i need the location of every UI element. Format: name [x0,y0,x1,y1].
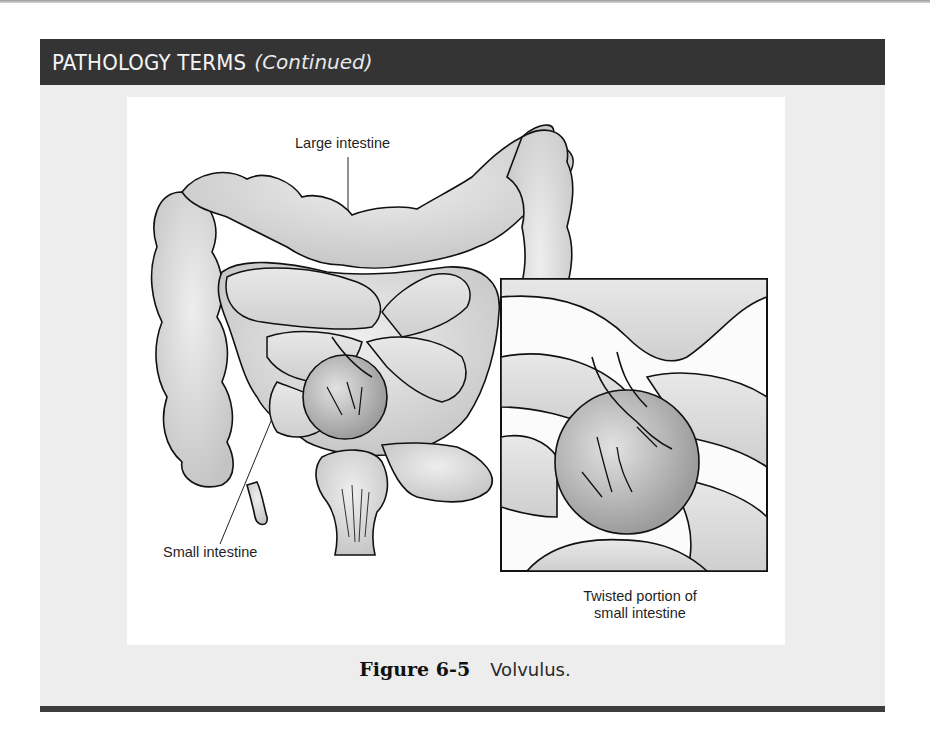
intestine-illustration [127,97,785,645]
bottom-rule [40,706,885,712]
section-subtitle: (Continued) [254,50,372,74]
label-twisted-line1: Twisted portion of [545,588,735,605]
figure-illustration: Large intestine Small intestine Twisted … [127,97,785,645]
section-title: PATHOLOGY TERMS [52,50,246,75]
label-twisted-line2: small intestine [545,605,735,622]
inset-twisted-loop [555,390,699,534]
figure-number: Figure 6-5 [359,658,470,680]
twisted-loop [303,355,387,439]
label-twisted-portion: Twisted portion of small intestine [545,588,735,622]
scan-edge [0,0,930,3]
figure-caption: Figure 6-5 Volvulus. [0,658,930,680]
figure-caption-text: Volvulus. [490,659,571,680]
label-large-intestine: Large intestine [295,135,390,152]
label-small-intestine: Small intestine [163,544,257,561]
section-header: PATHOLOGY TERMS (Continued) [40,39,885,85]
